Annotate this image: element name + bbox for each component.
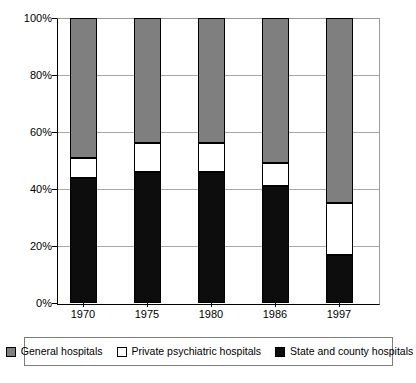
x-axis-label-1986: 1986 xyxy=(245,308,305,320)
x-tick-1997 xyxy=(339,303,340,307)
legend-item-private-psychiatric-hospitals[interactable]: Private psychiatric hospitals xyxy=(117,346,262,357)
y-axis-label-60: 60% xyxy=(0,127,52,138)
chart-legend: General hospitals Private psychiatric ho… xyxy=(24,337,393,366)
x-tick-1986 xyxy=(275,303,276,307)
bar-group-1997[interactable] xyxy=(326,18,353,303)
x-axis-label-1997: 1997 xyxy=(309,308,369,320)
bar-segment-general-1970[interactable] xyxy=(70,18,97,158)
bar-group-1986[interactable] xyxy=(262,18,289,303)
bar-segment-general-1997[interactable] xyxy=(326,18,353,203)
stacked-bar-chart: 100% 80% 60% 40% 20% 0% xyxy=(0,0,416,383)
bar-segment-private-1997[interactable] xyxy=(326,203,353,254)
y-axis-label-20: 20% xyxy=(0,241,52,252)
bar-segment-state-1997[interactable] xyxy=(326,255,353,303)
legend-item-general-hospitals[interactable]: General hospitals xyxy=(6,346,103,357)
bar-group-1975[interactable] xyxy=(134,18,161,303)
x-tick-1980 xyxy=(211,303,212,307)
legend-label-general-hospitals: General hospitals xyxy=(21,346,103,357)
bar-group-1970[interactable] xyxy=(70,18,97,303)
x-tick-1970 xyxy=(83,303,84,307)
bar-segment-general-1980[interactable] xyxy=(198,18,225,143)
bar-segment-state-1975[interactable] xyxy=(134,172,161,303)
bar-segment-general-1975[interactable] xyxy=(134,18,161,143)
x-axis: 1970 1975 1980 1986 1997 xyxy=(58,308,379,326)
x-axis-label-1980: 1980 xyxy=(181,308,241,320)
bar-segment-state-1980[interactable] xyxy=(198,172,225,303)
x-axis-label-1970: 1970 xyxy=(53,308,113,320)
x-tick-1975 xyxy=(147,303,148,307)
bar-segment-state-1970[interactable] xyxy=(70,178,97,303)
y-axis: 100% 80% 60% 40% 20% 0% xyxy=(0,18,52,303)
bar-segment-state-1986[interactable] xyxy=(262,186,289,303)
legend-item-state-and-county-hospitals[interactable]: State and county hospitals xyxy=(275,346,413,357)
gray-swatch-icon xyxy=(6,347,16,357)
plot-wrapper: 100% 80% 60% 40% 20% 0% xyxy=(0,0,416,330)
y-axis-label-100: 100% xyxy=(0,13,52,24)
y-axis-label-0: 0% xyxy=(0,298,52,309)
y-axis-label-80: 80% xyxy=(0,70,52,81)
y-axis-label-40: 40% xyxy=(0,184,52,195)
black-swatch-icon xyxy=(275,347,285,357)
legend-label-state-and-county-hospitals: State and county hospitals xyxy=(290,346,413,357)
white-swatch-icon xyxy=(117,347,127,357)
bar-segment-private-1986[interactable] xyxy=(262,163,289,186)
legend-label-private-psychiatric-hospitals: Private psychiatric hospitals xyxy=(132,346,262,357)
bar-group-1980[interactable] xyxy=(198,18,225,303)
x-axis-label-1975: 1975 xyxy=(117,308,177,320)
bar-segment-private-1975[interactable] xyxy=(134,143,161,172)
bar-segment-private-1980[interactable] xyxy=(198,143,225,172)
bars-layer xyxy=(58,18,379,303)
bar-segment-general-1986[interactable] xyxy=(262,18,289,163)
bar-segment-private-1970[interactable] xyxy=(70,158,97,178)
